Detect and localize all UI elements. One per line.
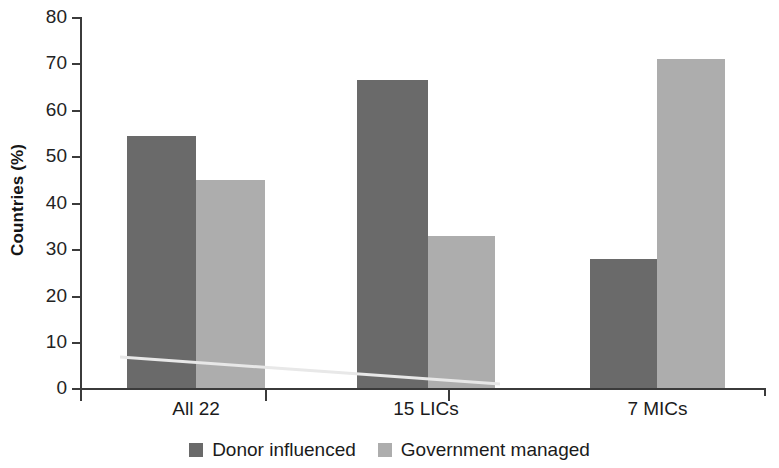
chart-page: Countries (%) 80 70 60 50 40 30 20 10 0 — [0, 0, 779, 468]
legend-label-donor-influenced: Donor influenced — [212, 440, 356, 459]
legend-swatch-donor-influenced — [189, 443, 203, 457]
bar-15lics-donor-influenced — [357, 80, 428, 389]
bar-7mics-donor-influenced — [590, 259, 657, 389]
x-category-label-7mics: 7 MICs — [590, 398, 725, 420]
chart-legend: Donor influenced Government managed — [0, 440, 779, 459]
x-axis-end-cap — [764, 388, 766, 396]
legend-item-donor-influenced: Donor influenced — [189, 440, 356, 459]
legend-label-government-managed: Government managed — [401, 440, 590, 459]
x-category-label-15lics: 15 LICs — [357, 398, 495, 420]
legend-item-government-managed: Government managed — [378, 440, 590, 459]
x-axis-line — [80, 388, 766, 390]
bar-7mics-government-managed — [657, 59, 725, 389]
legend-swatch-government-managed — [378, 443, 392, 457]
bar-all22-government-managed — [196, 180, 265, 389]
x-category-label-all22: All 22 — [127, 398, 265, 420]
x-tick-div-1 — [265, 390, 267, 401]
bar-all22-donor-influenced — [127, 136, 196, 389]
x-tick-start — [80, 390, 82, 401]
bar-15lics-government-managed — [428, 236, 495, 389]
bars-layer — [0, 0, 779, 389]
